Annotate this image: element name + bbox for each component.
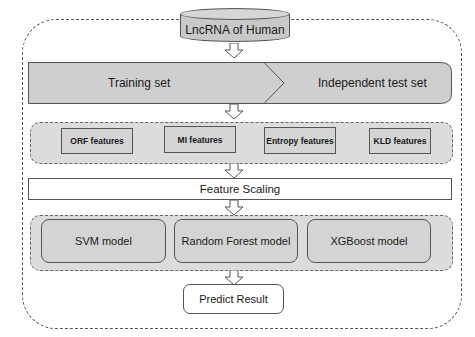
feature-box-orf: ORF features [61,128,133,154]
source-node-label: LncRNA of Human [180,20,290,40]
independent-test-set-label: Independent test set [318,62,427,104]
down-arrow-icon [224,200,244,216]
down-arrow-icon [224,163,244,179]
down-arrow-icon [224,104,244,120]
model-box-svm: SVM model [41,219,166,263]
feature-box-mi: MI features [164,126,236,153]
predict-result-box: Predict Result [183,284,284,314]
model-box-xgboost: XGBoost model [307,219,431,263]
down-arrow-icon [224,43,244,59]
database-cylinder-top [180,8,290,20]
model-box-random-forest: Random Forest model [174,219,298,263]
training-set-label: Training set [108,62,170,104]
feature-scaling-box: Feature Scaling [28,178,452,200]
feature-box-entropy: Entropy features [264,127,336,154]
feature-box-kld: KLD features [369,128,431,154]
